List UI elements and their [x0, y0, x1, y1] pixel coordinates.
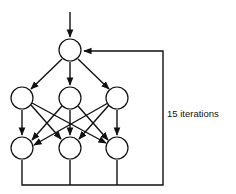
node-mid-left — [11, 87, 33, 109]
node-mid-right — [106, 87, 128, 109]
node-bot-center — [59, 137, 81, 159]
edge-top-midleft — [31, 59, 62, 89]
node-top — [59, 39, 81, 61]
edge-top-midright — [78, 59, 109, 89]
node-mid-center — [59, 87, 81, 109]
node-bot-right — [106, 137, 128, 159]
loop-label: 15 iterations — [167, 108, 219, 119]
edge-mr-bc — [79, 105, 109, 139]
node-bot-left — [11, 137, 33, 159]
network-diagram — [0, 0, 236, 194]
